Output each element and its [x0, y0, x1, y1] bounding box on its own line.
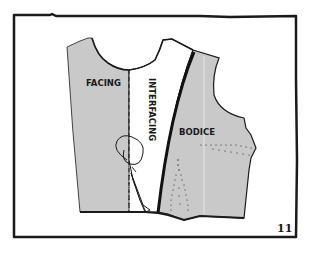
facing-label: FACING — [86, 78, 121, 88]
figure-number: 11 — [277, 222, 292, 235]
sewing-diagram: FACING INTERFACING BODICE 11 — [0, 0, 315, 253]
facing-piece — [67, 38, 129, 212]
bodice-label: BODICE — [179, 127, 215, 137]
interfacing-label: INTERFACING — [147, 78, 157, 141]
